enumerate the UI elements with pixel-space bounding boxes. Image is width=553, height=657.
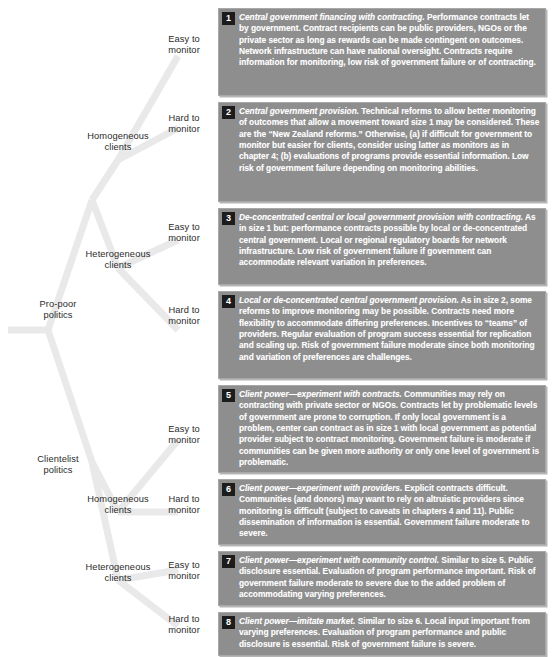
size-box-3-text: De-concentrated central or local governm…: [239, 212, 540, 269]
size-box-6-lead: Client power—experiment with providers.: [239, 483, 402, 493]
size-box-5-body: Communities may rely on contracting with…: [239, 389, 539, 467]
size-box-1-lead: Central government financing with contra…: [239, 12, 425, 22]
tree-node-heterogeneous-clients-2: Heterogeneous clients: [76, 562, 160, 585]
size-box-7-text: Client power—experiment with community c…: [239, 555, 540, 600]
size-box-7-lead: Client power—experiment with community c…: [239, 555, 439, 565]
size-box-5-text: Client power—experiment with contracts. …: [239, 389, 540, 468]
decision-tree-diagram: Pro-poor politics Clientelist politics H…: [0, 0, 553, 657]
size-box-5-number: 5: [222, 389, 235, 402]
size-box-7: 7 Client power—experiment with community…: [218, 551, 546, 606]
size-box-2-body: Technical reforms to allow better monito…: [239, 106, 539, 173]
tree-node-hard-to-monitor-4: Hard to monitor: [158, 614, 210, 637]
size-box-2-text: Central government provision. Technical …: [239, 106, 540, 174]
tree-node-easy-to-monitor-2: Easy to monitor: [158, 222, 210, 245]
size-box-2: 2 Central government provision. Technica…: [218, 102, 546, 202]
size-box-3-lead: De-concentrated central or local governm…: [239, 212, 523, 222]
tree-node-heterogeneous-clients-1: Heterogeneous clients: [76, 249, 160, 272]
tree-node-easy-to-monitor-3: Easy to monitor: [158, 424, 210, 447]
tree-node-hard-to-monitor-2: Hard to monitor: [158, 305, 210, 328]
tree-node-pro-poor-politics: Pro-poor politics: [22, 299, 94, 322]
size-box-5: 5 Client power—experiment with contracts…: [218, 385, 546, 473]
size-box-6: 6 Client power—experiment with providers…: [218, 479, 546, 545]
size-box-1: 1 Central government financing with cont…: [218, 8, 546, 96]
size-box-2-number: 2: [222, 106, 235, 119]
size-box-1-number: 1: [222, 12, 235, 25]
size-box-1-text: Central government financing with contra…: [239, 12, 540, 69]
size-box-4-text: Local or de-concentrated central governm…: [239, 295, 540, 363]
size-box-5-lead: Client power—experiment with contracts.: [239, 389, 402, 399]
tree-node-homogeneous-clients-1: Homogeneous clients: [76, 131, 160, 154]
tree-node-hard-to-monitor-3: Hard to monitor: [158, 494, 210, 517]
size-box-7-number: 7: [222, 555, 235, 568]
size-box-8: 8 Client power—imitate market. Similar t…: [218, 612, 546, 656]
size-box-4-number: 4: [222, 295, 235, 308]
size-box-4: 4 Local or de-concentrated central gover…: [218, 291, 546, 379]
tree-node-easy-to-monitor-4: Easy to monitor: [158, 560, 210, 583]
size-box-2-lead: Central government provision.: [239, 106, 359, 116]
size-box-8-number: 8: [222, 616, 235, 629]
size-box-8-lead: Client power—imitate market.: [239, 616, 355, 626]
size-box-3-number: 3: [222, 212, 235, 225]
size-box-6-number: 6: [222, 483, 235, 496]
tree-connector-lines: [0, 0, 215, 657]
size-box-3: 3 De-concentrated central or local gover…: [218, 208, 546, 285]
size-box-4-body: As in size 2, some reforms to improve mo…: [239, 295, 535, 362]
size-box-6-text: Client power—experiment with providers. …: [239, 483, 540, 540]
size-box-4-lead: Local or de-concentrated central governm…: [239, 295, 459, 305]
tree-node-clientelist-politics: Clientelist politics: [22, 454, 94, 477]
tree-node-hard-to-monitor-1: Hard to monitor: [158, 113, 210, 136]
tree-node-homogeneous-clients-2: Homogeneous clients: [76, 494, 160, 517]
size-box-8-text: Client power—imitate market. Similar to …: [239, 616, 540, 650]
tree-node-easy-to-monitor-1: Easy to monitor: [158, 34, 210, 57]
